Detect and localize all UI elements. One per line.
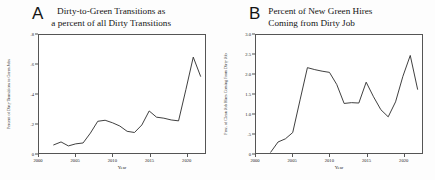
panel-a-plot-area: Percent of Dirty Transitions to Green Jo… xyxy=(0,34,217,180)
panel-b-y-tick-label: 3.0 xyxy=(245,32,251,37)
panel-a-y-tick-label: .6 xyxy=(31,62,34,67)
panel-b-x-tick-label: 2010 xyxy=(325,158,334,163)
panel-a-x-tick-mark xyxy=(112,154,113,157)
panel-b-x-tick-label: 2005 xyxy=(288,158,297,163)
panel-b-series-svg xyxy=(256,35,422,153)
panel-b-plot-frame xyxy=(255,34,423,154)
panel-a-y-ticks: 0.2.4.6.8 xyxy=(14,34,38,154)
panel-a-x-tick-mark xyxy=(75,154,76,157)
panel-a-x-tick-label: 2005 xyxy=(71,158,80,163)
panel-b-y-tick-label: 2.0 xyxy=(245,72,251,77)
panel-b-y-tick-label: .5 xyxy=(248,132,251,137)
panel-a-x-tick-label: 2000 xyxy=(33,158,42,163)
panel-a-y-tick-label: .4 xyxy=(31,92,34,97)
panel-a-y-tick-label: .2 xyxy=(31,122,34,127)
panel-a-y-tick-label: .8 xyxy=(31,32,34,37)
panel-a-x-tick-mark xyxy=(38,154,39,157)
panel-b-series-line xyxy=(271,55,418,152)
panel-b-y-ticks: 0.51.01.52.02.53.0 xyxy=(231,34,255,154)
panel-b-y-axis-label: Perc. of Clean Job Hires Coming From Dir… xyxy=(220,34,231,154)
panel-a-x-tick-label: 2020 xyxy=(182,158,191,163)
panel-b-x-tick-label: 2015 xyxy=(362,158,371,163)
panel-b-x-tick-label: 2020 xyxy=(399,158,408,163)
panel-b-y-tick-label: 1.5 xyxy=(245,92,251,97)
panel-a: A Dirty-to-Green Transitions as a percen… xyxy=(0,0,217,180)
panel-b-title: Percent of New Green Hires Coming from D… xyxy=(260,3,372,29)
panel-b-x-tick-mark xyxy=(292,154,293,157)
two-panel-line-chart-figure: A Dirty-to-Green Transitions as a percen… xyxy=(0,0,435,180)
panel-a-x-tick-mark xyxy=(187,154,188,157)
panel-a-plot-frame xyxy=(38,34,206,154)
panel-b-header: B Percent of New Green Hires Coming from… xyxy=(217,3,434,35)
panel-b-y-tick-label: 0 xyxy=(249,152,251,157)
panel-a-x-tick-label: 2010 xyxy=(108,158,117,163)
panel-b-x-tick-label: 2000 xyxy=(250,158,259,163)
panel-b-y-tick-label: 1.0 xyxy=(245,112,251,117)
panel-a-title: Dirty-to-Green Transitions as a percent … xyxy=(43,3,171,29)
panel-b-plot-area: Perc. of Clean Job Hires Coming From Dir… xyxy=(217,34,434,180)
panel-b-x-tick-mark xyxy=(404,154,405,157)
panel-a-x-tick-label: 2015 xyxy=(145,158,154,163)
panel-a-y-axis-label: Percent of Dirty Transitions to Green Jo… xyxy=(3,34,14,154)
panel-b-x-tick-mark xyxy=(329,154,330,157)
panel-b-letter: B xyxy=(217,3,260,22)
panel-a-header: A Dirty-to-Green Transitions as a percen… xyxy=(0,3,217,35)
panel-a-letter: A xyxy=(0,3,43,22)
panel-a-x-tick-mark xyxy=(150,154,151,157)
panel-b-x-tick-mark xyxy=(255,154,256,157)
panel-b-y-tick-label: 2.5 xyxy=(245,52,251,57)
panel-a-x-axis-label: Year xyxy=(38,165,206,170)
panel-b: B Percent of New Green Hires Coming from… xyxy=(217,0,434,180)
panel-b-x-axis-label: Year xyxy=(255,165,423,170)
panel-b-x-tick-mark xyxy=(367,154,368,157)
panel-a-series-svg xyxy=(39,35,205,153)
panel-a-y-tick-label: 0 xyxy=(32,152,34,157)
panel-a-series-line xyxy=(54,57,201,146)
